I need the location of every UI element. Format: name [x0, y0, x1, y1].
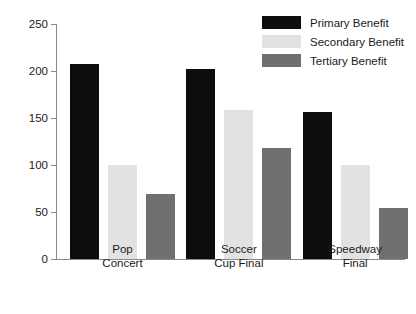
y-tick-mark	[51, 212, 56, 213]
y-tick-mark	[51, 118, 56, 119]
x-axis-category-line: Pop	[102, 243, 142, 257]
x-axis-category-line: Final	[328, 257, 382, 271]
bar	[146, 194, 175, 259]
bar	[70, 64, 99, 259]
y-tick-mark	[51, 259, 56, 260]
x-axis-category-label: SoccerCup Final	[214, 243, 263, 270]
legend-item: Primary Benefit	[262, 14, 404, 31]
x-axis-category-label: PopConcert	[102, 243, 142, 270]
x-axis-category-label: SpeedwayFinal	[328, 243, 382, 270]
x-axis-category-line: Speedway	[328, 243, 382, 257]
y-tick-mark	[51, 71, 56, 72]
bar-chart: Per capita (£) 050100150200250 PopConcer…	[0, 0, 416, 314]
bar	[379, 208, 408, 259]
legend-swatch	[262, 54, 301, 67]
y-axis-line	[56, 24, 57, 259]
y-tick-mark	[51, 165, 56, 166]
legend-item: Tertiary Benefit	[262, 52, 404, 69]
legend: Primary BenefitSecondary BenefitTertiary…	[262, 14, 404, 71]
y-tick-label: 50	[35, 206, 48, 218]
bar	[224, 110, 253, 259]
y-tick-label: 100	[29, 159, 48, 171]
x-axis-category-line: Cup Final	[214, 257, 263, 271]
x-axis-category-line: Soccer	[214, 243, 263, 257]
legend-swatch	[262, 16, 301, 29]
bar	[303, 112, 332, 259]
y-tick-label: 150	[29, 112, 48, 124]
y-tick-mark	[51, 24, 56, 25]
legend-label: Secondary Benefit	[310, 36, 404, 48]
bar	[262, 148, 291, 259]
legend-item: Secondary Benefit	[262, 33, 404, 50]
legend-label: Tertiary Benefit	[310, 55, 387, 67]
bar	[186, 69, 215, 259]
y-tick-label: 250	[29, 18, 48, 30]
x-axis-category-line: Concert	[102, 257, 142, 271]
legend-label: Primary Benefit	[310, 17, 389, 29]
y-tick-label: 0	[42, 253, 48, 265]
y-tick-label: 200	[29, 65, 48, 77]
legend-swatch	[262, 35, 301, 48]
